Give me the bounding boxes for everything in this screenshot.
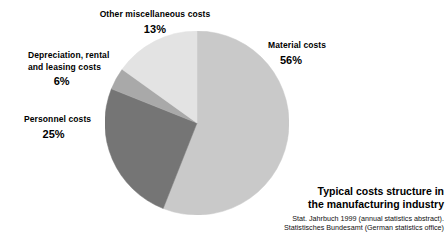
pie-value-depreciation-costs: 6% <box>14 76 109 88</box>
pie-label-other-miscellaneous-costs: Other miscellaneous costs 13% <box>84 9 226 35</box>
pie-label-personnel-costs: Personnel costs 25% <box>24 114 91 140</box>
chart-source-note: Stat. Jahrbuch 1999 (annual statistics a… <box>212 214 444 232</box>
pie-label-material-costs-text: Material costs <box>268 40 326 50</box>
pie-value-personnel-costs: 25% <box>16 129 91 141</box>
pie-label-personnel-costs-text: Personnel costs <box>24 114 91 124</box>
chart-canvas: Other miscellaneous costs 13% Depreciati… <box>0 0 448 244</box>
chart-source-line2: Statistisches Bundesamt (German statisti… <box>212 223 444 232</box>
chart-title-line2: the manufacturing industry <box>212 198 444 211</box>
pie-label-depreciation-costs: Depreciation, rental and leasing costs 6… <box>28 50 109 88</box>
pie-label-material-costs: Material costs 56% <box>268 40 326 66</box>
pie-label-depreciation-costs-line1: Depreciation, rental <box>28 50 109 60</box>
chart-title: Typical costs structure in the manufactu… <box>212 185 444 210</box>
chart-source-line1: Stat. Jahrbuch 1999 (annual statistics a… <box>212 214 444 223</box>
pie-value-material-costs: 56% <box>256 55 326 67</box>
pie-value-other-miscellaneous-costs: 13% <box>84 24 226 36</box>
chart-title-block: Typical costs structure in the manufactu… <box>212 185 444 232</box>
pie-label-other-miscellaneous-costs-text: Other miscellaneous costs <box>100 9 211 19</box>
pie-label-depreciation-costs-line2: and leasing costs <box>28 62 101 72</box>
chart-title-line1: Typical costs structure in <box>212 185 444 198</box>
